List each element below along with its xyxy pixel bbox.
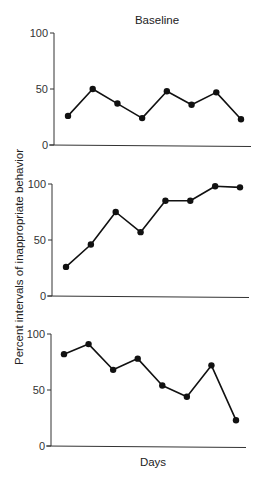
- panel-3-data-point: [135, 355, 141, 361]
- panel-3-x-axis: [46, 446, 246, 448]
- panel-3-data-point: [61, 351, 67, 357]
- shared-y-axis-label: Percent intervals of inappropriate behav…: [13, 149, 25, 365]
- panel-1-data-point: [188, 101, 194, 107]
- panel-1-y-tick-label: 50: [36, 83, 48, 95]
- panel-2-data-point: [162, 198, 168, 204]
- panel-3-data-point: [159, 382, 165, 388]
- panel-1-data-point: [114, 100, 120, 106]
- panel-1-y-tick-label: 100: [30, 27, 48, 39]
- panel-3-x-axis-label: Days: [140, 456, 166, 468]
- panel-2-data-point: [113, 209, 119, 215]
- panel-2-y-tick-label: 50: [34, 234, 46, 246]
- multi-panel-line-chart: Baseline Percent intervals of inappropri…: [0, 0, 260, 481]
- panel-2-y-tick-label: 0: [40, 290, 46, 302]
- panel-2-data-point: [88, 241, 94, 247]
- panel-2-data-point: [237, 184, 243, 190]
- panel-3-y-tick-label: 50: [33, 384, 45, 396]
- panel-2-data-point: [63, 264, 69, 270]
- panel-2-data-point: [212, 183, 218, 189]
- panel-3-y-tick-label: 0: [39, 440, 45, 452]
- panel-3-data-point: [233, 417, 239, 423]
- panel-1-data-point: [90, 86, 96, 92]
- panel-2-y-tick-label: 100: [28, 178, 46, 190]
- panel-3-data-point: [208, 362, 214, 368]
- panel-1-data-point: [213, 89, 219, 95]
- panel-2-data-point: [137, 229, 143, 235]
- panel-1-data-point: [164, 88, 170, 94]
- panel-2-series-line: [66, 186, 240, 267]
- panel-1-title: Baseline: [135, 14, 179, 26]
- panel-1-data-point: [238, 116, 244, 122]
- panel-3-y-tick-label: 100: [27, 328, 45, 340]
- panel-1-data-point: [139, 115, 145, 121]
- panel-2-x-axis: [47, 296, 249, 298]
- panel-3-data-point: [110, 367, 116, 373]
- panel-1-data-point: [65, 113, 71, 119]
- panel-3-data-point: [85, 341, 91, 347]
- panel-1-x-axis: [49, 145, 251, 147]
- panel-3-series-line: [64, 344, 236, 420]
- panel-3-data-point: [184, 394, 190, 400]
- panel-1-y-tick-label: 0: [42, 139, 48, 151]
- panel-2-data-point: [187, 198, 193, 204]
